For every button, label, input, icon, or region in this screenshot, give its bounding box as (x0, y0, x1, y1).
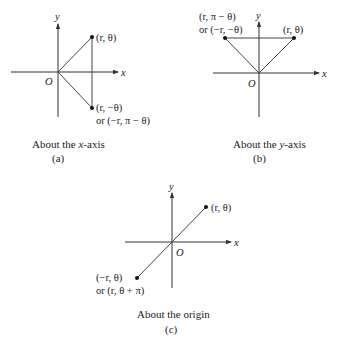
reflected-point-label: (r, −θ) (96, 102, 123, 114)
point-label: (r, θ) (96, 32, 117, 44)
panel-caption: About the y-axis (233, 138, 306, 150)
point-label: (r, θ) (211, 202, 232, 214)
panel-a-x-axis-symmetry: y x O (r, θ) (r, −θ) or (−r, π − θ) Abou… (11, 11, 151, 165)
y-axis-label: y (168, 181, 174, 192)
point-neg-r-theta (135, 276, 139, 280)
point-r-theta (90, 35, 94, 39)
reflected-point-alt-label: or (−r, −θ) (199, 24, 243, 36)
point-r-neg-theta (90, 106, 94, 110)
y-axis-label: y (54, 11, 60, 22)
segment-origin-to-reflected (225, 38, 259, 73)
point-r-theta (204, 205, 208, 209)
panel-caption: About the origin (137, 308, 210, 320)
reflected-point-label: (−r, θ) (96, 272, 123, 284)
panel-caption: About the x-axis (32, 138, 105, 150)
reflected-point-label: (r, π − θ) (199, 11, 236, 23)
panel-c-origin-symmetry: y x O (r, θ) (−r, θ) or (r, θ + π) About… (96, 181, 239, 336)
origin-label: O (45, 76, 53, 87)
panel-b-y-axis-symmetry: y x O (r, θ) (r, π − θ) or (−r, −θ) Abou… (199, 10, 327, 165)
x-axis-label: x (233, 237, 239, 248)
point-label: (r, θ) (283, 24, 304, 36)
origin-label: O (248, 78, 256, 89)
x-axis-label: x (120, 67, 126, 78)
segment-origin-to-reflected (58, 72, 92, 108)
reflected-point-alt-label: or (r, θ + π) (96, 285, 145, 297)
origin-label: O (176, 247, 184, 258)
panel-sublabel: (a) (52, 152, 65, 165)
segment-origin-to-point (259, 38, 294, 73)
y-axis-label: y (255, 10, 261, 21)
panel-sublabel: (c) (165, 323, 178, 336)
panel-sublabel: (b) (253, 152, 266, 165)
point-r-theta (292, 36, 296, 40)
reflected-point-alt-label: or (−r, π − θ) (96, 115, 151, 127)
segment-origin-to-point (58, 37, 92, 72)
x-axis-label: x (321, 68, 327, 79)
point-r-pi-minus-theta (223, 36, 227, 40)
